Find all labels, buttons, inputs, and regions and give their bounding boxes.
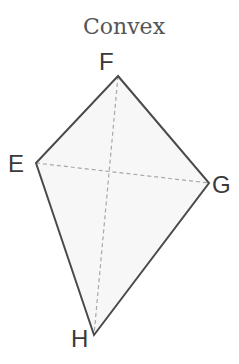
vertex-label-e: E <box>8 150 24 177</box>
vertex-label-g: G <box>212 171 231 198</box>
vertex-label-h: H <box>71 325 88 352</box>
kite-diagram: F E G H <box>0 0 239 364</box>
vertex-label-f: F <box>99 48 114 75</box>
